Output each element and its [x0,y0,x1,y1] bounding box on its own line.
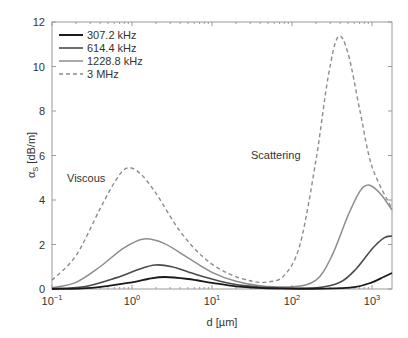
legend-label-1228khz: 1228.8 kHz [87,55,143,67]
y-tick-label: 10 [33,61,45,73]
y-axis-label-unit: [dB/m] [25,132,37,167]
y-tick-label: 4 [39,194,45,206]
series-line-1228-8-khz [52,185,392,288]
x-tick-label: 102 [284,293,300,307]
series-line-614-4-khz [52,236,392,289]
annotation-scattering: Scattering [251,149,301,161]
x-axis-label: d [µm] [207,316,238,328]
annotation-viscous: Viscous [67,172,106,184]
x-tick-label: 10−1 [42,293,63,307]
attenuation-chart: 024681012 10−1100101102103 307.2 kHz 614… [0,0,408,338]
y-tick-label: 12 [33,16,45,28]
x-tick-label: 103 [364,293,380,307]
legend-label-307khz: 307.2 kHz [87,29,137,41]
legend-label-3mhz: 3 MHz [87,68,119,80]
y-tick-label: 6 [39,150,45,162]
y-axis-label: αS [dB/m] [25,132,40,178]
legend-label-614khz: 614.4 kHz [87,42,137,54]
y-tick-label: 2 [39,239,45,251]
y-tick-label: 0 [39,283,45,295]
x-tick-label: 101 [204,293,220,307]
x-tick-label: 100 [124,293,140,307]
legend: 307.2 kHz 614.4 kHz 1228.8 kHz 3 MHz [59,29,143,80]
y-tick-label: 8 [39,105,45,117]
